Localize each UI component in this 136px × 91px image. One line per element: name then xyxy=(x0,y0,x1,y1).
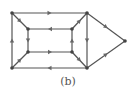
figure-caption: (b) xyxy=(0,75,136,88)
node-outer-tl xyxy=(10,11,14,15)
node-apex xyxy=(123,39,127,43)
arrow-icon xyxy=(85,39,89,43)
node-inner-tl xyxy=(26,27,30,31)
arrow-icon xyxy=(48,66,52,70)
arrow-icon xyxy=(48,50,52,54)
node-outer-br xyxy=(85,66,89,70)
directed-graph-figure: (b) xyxy=(0,0,136,91)
arrow-icon xyxy=(70,39,74,43)
node-outer-tr xyxy=(85,11,89,15)
arrow-icon xyxy=(48,27,52,31)
arrow-icon xyxy=(26,39,30,43)
node-inner-br xyxy=(70,50,74,54)
node-inner-bl xyxy=(26,50,30,54)
node-inner-tr xyxy=(70,27,74,31)
arrow-icon xyxy=(48,11,52,15)
arrow-icon xyxy=(10,39,14,43)
node-outer-bl xyxy=(10,66,14,70)
